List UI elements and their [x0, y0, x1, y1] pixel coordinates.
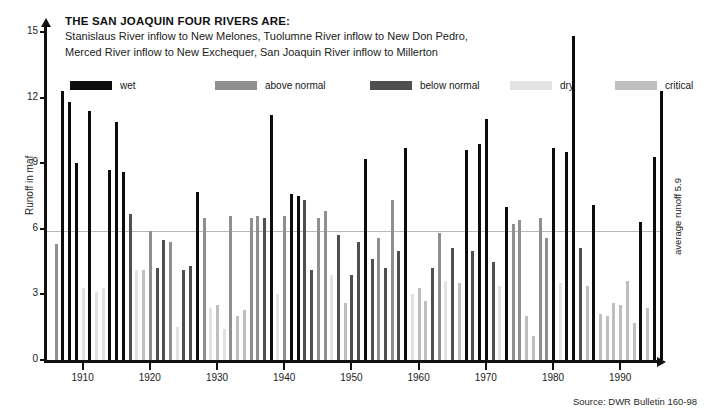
x-tick-mark	[82, 363, 84, 370]
bar-1968	[471, 251, 474, 360]
bar-1912	[95, 292, 98, 360]
bar-1937	[263, 218, 266, 360]
bar-1995	[653, 157, 656, 360]
bar-1986	[592, 205, 595, 360]
source-note: Source: DWR Bulletin 160-98	[573, 396, 697, 407]
y-tick-mark	[40, 228, 47, 230]
bar-1910	[82, 288, 85, 360]
x-tick-mark	[552, 363, 554, 370]
bar-1972	[498, 286, 501, 360]
y-tick-mark	[40, 31, 47, 33]
bar-1987	[599, 314, 602, 360]
x-tick-label: 1970	[475, 372, 497, 383]
bar-1944	[310, 270, 313, 360]
bar-1948	[337, 235, 340, 360]
legend-label: critical	[665, 80, 693, 91]
bar-1918	[135, 270, 138, 360]
bar-1919	[142, 270, 145, 360]
bar-1964	[444, 281, 447, 360]
bar-1950	[350, 275, 353, 360]
bar-1935	[250, 218, 253, 360]
bar-1938	[270, 115, 273, 360]
y-tick-mark	[40, 97, 47, 99]
x-tick-label: 1910	[71, 372, 93, 383]
bar-1954	[377, 238, 380, 360]
bar-1973	[505, 207, 508, 360]
bar-1979	[545, 238, 548, 360]
bar-1913	[102, 288, 105, 360]
bar-1932	[229, 216, 232, 360]
bar-1957	[397, 251, 400, 360]
bar-1969	[478, 144, 481, 360]
bar-1961	[424, 301, 427, 360]
x-tick-label: 1920	[139, 372, 161, 383]
bar-1930	[216, 305, 219, 360]
bar-1945	[317, 218, 320, 360]
bar-1956	[391, 200, 394, 360]
bar-1991	[626, 281, 629, 360]
bar-1943	[303, 200, 306, 360]
bar-1916	[122, 172, 125, 360]
x-tick-label: 1990	[609, 372, 631, 383]
runoff-bar-chart: THE SAN JOAQUIN FOUR RIVERS ARE: Stanisl…	[0, 0, 707, 420]
bars-area	[48, 32, 658, 360]
bar-1941	[290, 194, 293, 360]
bar-1939	[276, 294, 279, 360]
bar-1922	[162, 240, 165, 360]
bar-1983	[572, 36, 575, 360]
bar-1974	[512, 224, 515, 360]
y-tick-label: 0	[18, 353, 38, 364]
bar-1996	[660, 91, 663, 360]
x-tick-mark	[283, 363, 285, 370]
x-tick-mark	[149, 363, 151, 370]
bar-1951	[357, 242, 360, 360]
bar-1960	[418, 288, 421, 360]
bar-1985	[586, 286, 589, 360]
bar-1924	[176, 327, 179, 360]
bar-1934	[243, 310, 246, 360]
bar-1990	[619, 305, 622, 360]
bar-1923	[169, 242, 172, 360]
bar-1959	[411, 294, 414, 360]
bar-1970	[485, 119, 488, 360]
average-runoff-label: average runoff 5.9	[672, 178, 683, 255]
x-tick-label: 1950	[340, 372, 362, 383]
x-tick-mark	[485, 363, 487, 370]
x-tick-label: 1980	[542, 372, 564, 383]
y-tick-label: 12	[18, 91, 38, 102]
bar-1989	[612, 303, 615, 360]
bar-1929	[209, 308, 212, 360]
bar-1962	[431, 268, 434, 360]
y-tick-label: 6	[18, 222, 38, 233]
bar-1952	[364, 159, 367, 360]
bar-1971	[492, 262, 495, 360]
bar-1917	[129, 214, 132, 361]
x-tick-label: 1940	[273, 372, 295, 383]
bar-1907	[61, 91, 64, 360]
bar-1955	[384, 268, 387, 360]
bar-1927	[196, 192, 199, 360]
bar-1926	[189, 266, 192, 360]
bar-1920	[149, 231, 152, 360]
bar-1933	[236, 316, 239, 360]
bar-1914	[108, 170, 111, 360]
x-tick-mark	[216, 363, 218, 370]
bar-1928	[203, 218, 206, 360]
bar-1946	[324, 211, 327, 360]
bar-1925	[182, 270, 185, 360]
bar-1992	[633, 323, 636, 360]
bar-1993	[639, 222, 642, 360]
y-axis-line	[44, 26, 47, 363]
bar-1988	[606, 316, 609, 360]
bar-1977	[532, 336, 535, 360]
bar-1982	[565, 152, 568, 360]
bar-1984	[579, 248, 582, 360]
bar-1909	[75, 163, 78, 360]
bar-1965	[451, 248, 454, 360]
bar-1921	[156, 268, 159, 360]
x-tick-label: 1960	[407, 372, 429, 383]
x-tick-mark	[350, 363, 352, 370]
bar-1906	[55, 244, 58, 360]
bar-1911	[88, 111, 91, 360]
bar-1966	[458, 283, 461, 360]
